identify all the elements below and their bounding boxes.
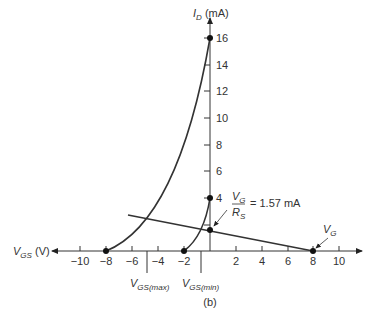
vg-annotation: VG [316,223,337,248]
y-tick-label: 4 [216,192,222,204]
svg-text:VG: VG [232,190,246,205]
x-tick-label: 8 [310,255,316,267]
x-tick-label: 4 [259,255,265,267]
x-tick-label: 6 [285,255,291,267]
svg-text:VG: VG [323,223,337,238]
y-tick-label: 16 [216,32,228,44]
y-tick-label: 10 [216,112,228,124]
bias-line [128,215,313,251]
x-tick-label: −2 [178,255,191,267]
vgs-max-label: VGS(max) [130,277,170,292]
svg-text:RS: RS [232,206,246,221]
x-tick-label: −6 [126,255,139,267]
x-axis-label: VGS (V) [13,245,50,260]
transfer-curve-max [106,38,210,251]
y-axis-label: ID (mA) [193,7,229,22]
y-tick-label: 14 [216,59,228,71]
vg-rs-annotation: VG RS = 1.57 mA [214,190,301,226]
y-tick-label: 6 [216,165,222,177]
y-tick-label: 12 [216,85,228,97]
x-tick-label: −4 [152,255,165,267]
x-tick-label: −10 [71,255,90,267]
svg-text:= 1.57 mA: = 1.57 mA [250,197,301,209]
vgs-min-label: VGS(min) [182,277,219,292]
x-tick-label: −8 [100,255,113,267]
jfet-bias-diagram: −10 −8 −6 −4 −2 2 4 6 8 10 4 6 8 10 12 1… [0,0,383,318]
x-tick-label: 2 [233,255,239,267]
figure-caption: (b) [203,296,216,308]
y-tick-label: 8 [216,139,222,151]
x-tick-label: 10 [333,255,345,267]
